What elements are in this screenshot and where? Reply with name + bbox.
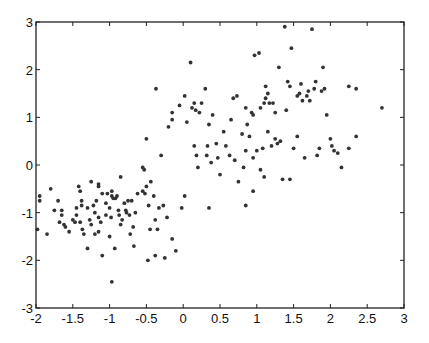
data-point	[235, 94, 239, 98]
y-tick-label: 1	[26, 110, 33, 125]
data-point	[325, 113, 329, 117]
data-point	[336, 151, 340, 155]
data-point	[276, 142, 280, 146]
data-point	[245, 123, 249, 127]
data-point	[143, 192, 147, 196]
x-tick-label: 2	[327, 311, 334, 326]
data-point	[262, 101, 266, 105]
data-point	[306, 89, 310, 93]
data-point	[146, 258, 150, 262]
data-point	[97, 230, 101, 234]
data-point	[117, 213, 121, 217]
x-tick-label: -1	[104, 311, 116, 326]
data-point	[128, 213, 132, 217]
data-point	[174, 249, 178, 253]
data-point	[347, 146, 351, 150]
data-point	[183, 194, 187, 198]
data-point	[240, 132, 244, 136]
data-point	[189, 61, 193, 65]
data-point	[132, 244, 136, 248]
data-point	[266, 130, 270, 134]
data-point	[237, 180, 241, 184]
data-point	[347, 84, 351, 88]
data-point	[82, 232, 86, 236]
data-point	[299, 82, 303, 86]
data-point	[80, 204, 84, 208]
data-point	[192, 144, 196, 148]
data-point	[329, 137, 333, 141]
x-tick-label: 0.5	[211, 311, 229, 326]
data-point	[270, 144, 274, 148]
data-point	[288, 177, 292, 181]
data-point	[131, 225, 135, 229]
data-point	[305, 94, 309, 98]
data-point	[259, 106, 263, 110]
data-point	[354, 135, 358, 139]
data-point	[264, 84, 268, 88]
chart-background	[0, 0, 429, 343]
data-point	[153, 254, 157, 258]
data-point	[214, 142, 218, 146]
data-point	[207, 206, 211, 210]
data-point	[115, 194, 119, 198]
data-point	[320, 89, 324, 93]
data-point	[273, 137, 277, 141]
data-point	[163, 256, 167, 260]
data-point	[86, 206, 90, 210]
data-point	[289, 46, 293, 50]
data-point	[211, 113, 215, 117]
data-point	[259, 168, 263, 172]
data-point	[80, 227, 84, 231]
data-point	[86, 247, 90, 251]
x-tick-label: 0	[180, 311, 187, 326]
data-point	[78, 189, 82, 193]
data-point	[60, 208, 64, 212]
data-point	[244, 149, 248, 153]
data-point	[157, 206, 161, 210]
data-point	[303, 156, 307, 160]
data-point	[125, 211, 129, 215]
data-point	[216, 156, 220, 160]
data-point	[154, 87, 158, 91]
data-point	[105, 192, 109, 196]
data-point	[354, 87, 358, 91]
data-point	[56, 199, 60, 203]
data-point	[281, 177, 285, 181]
data-point	[340, 165, 344, 169]
data-point	[145, 185, 149, 189]
data-point	[133, 211, 137, 215]
data-point	[108, 206, 112, 210]
data-point	[222, 130, 226, 134]
data-point	[170, 118, 174, 122]
data-point	[330, 144, 334, 148]
y-tick-label: 2	[26, 63, 33, 78]
data-point	[206, 144, 210, 148]
data-point	[110, 280, 114, 284]
data-point	[301, 99, 305, 103]
data-point	[310, 27, 314, 31]
data-point	[209, 161, 213, 165]
data-point	[185, 120, 189, 124]
data-point	[314, 80, 318, 84]
data-point	[77, 185, 81, 189]
data-point	[251, 156, 255, 160]
data-point	[38, 199, 42, 203]
data-point	[75, 206, 79, 210]
data-point	[298, 92, 302, 96]
data-point	[192, 101, 196, 105]
data-point	[271, 101, 275, 105]
data-point	[231, 96, 235, 100]
data-point	[292, 146, 296, 150]
data-point	[156, 227, 160, 231]
data-point	[159, 154, 163, 158]
data-point	[332, 149, 336, 153]
data-point	[64, 225, 68, 229]
data-point	[113, 247, 117, 251]
data-point	[109, 216, 113, 220]
data-point	[149, 180, 153, 184]
data-point	[196, 165, 200, 169]
data-point	[94, 199, 98, 203]
data-point	[136, 192, 140, 196]
data-point	[261, 146, 265, 150]
data-point	[99, 220, 103, 224]
